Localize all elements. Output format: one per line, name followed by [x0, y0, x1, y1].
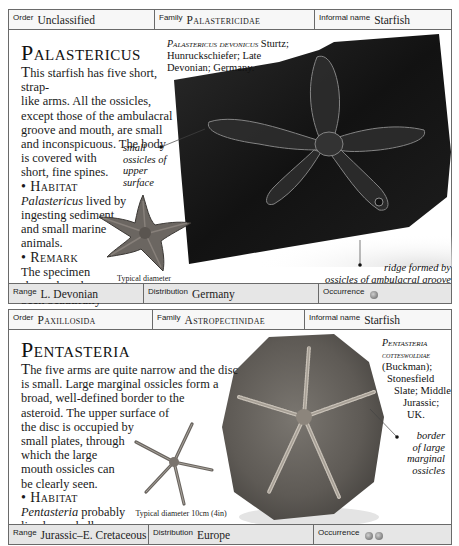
order-cell: Order Paxillosida: [9, 310, 153, 329]
occurrence-cell: Occurrence: [319, 284, 451, 303]
order-value: Unclassified: [37, 14, 94, 26]
description-line: except those of the ambulacral: [21, 109, 181, 123]
annotation-ridge: ridge formed by ossicles of ambulacral g…: [281, 262, 451, 285]
order-label: Order: [13, 313, 33, 322]
distribution-cell: Distribution Europe: [149, 525, 314, 544]
occurrence-icon: [365, 532, 373, 540]
description-line: This starfish has five short, strap-: [21, 65, 181, 94]
family-value: Astropectinidae: [185, 314, 265, 326]
family-value: Palastericidae: [187, 14, 261, 26]
distribution-value: Germany: [192, 288, 235, 300]
entry-footer: Range Jurassic–E. Cretaceous Distributio…: [9, 524, 451, 544]
palastericus-pyrite-starfish-image: [97, 193, 193, 273]
annotation-border-ossicles: border of large marginal ossicles: [393, 430, 445, 476]
range-cell: Range Jurassic–E. Cretaceous: [9, 525, 149, 544]
entry-palastericus: Order Unclassified Family Palastericidae…: [8, 9, 452, 304]
informal-name-cell: Informal name Starfish: [315, 10, 451, 29]
family-label: Family: [159, 13, 183, 22]
description-line: The five arms are quite narrow and the d…: [21, 362, 241, 377]
scientific-name: cotteswoldiae: [382, 349, 452, 361]
informal-name-label: Informal name: [319, 13, 370, 22]
description-line: is small. Large marginal ossicles form a: [21, 377, 241, 391]
informal-name-value: Starfish: [364, 314, 400, 326]
distribution-label: Distribution: [148, 287, 188, 296]
entry-header: Order Unclassified Family Palastericidae…: [9, 10, 451, 30]
entry-title: Pentasteria: [21, 337, 130, 363]
description-line: like arms. All the ossicles,: [21, 94, 181, 108]
range-value: L. Devonian: [41, 288, 98, 300]
distribution-value: Europe: [197, 529, 230, 541]
informal-name-cell: Informal name Starfish: [305, 310, 451, 329]
specimen-caption: Palastericus devonicus Sturtz; Hunrucksc…: [167, 38, 307, 74]
occurrence-label: Occurrence: [323, 287, 364, 296]
description-line: asteroid. The upper surface of: [21, 406, 241, 420]
distribution-cell: Distribution Germany: [144, 284, 319, 303]
distribution-label: Distribution: [153, 528, 193, 537]
scientific-name: Palastericus devonicus: [167, 38, 258, 49]
entry-header: Order Paxillosida Family Astropectinidae…: [9, 310, 451, 330]
entry-title: Palastericus: [21, 40, 141, 66]
order-cell: Order Unclassified: [9, 10, 155, 29]
range-label: Range: [13, 287, 37, 296]
occurrence-icon: [370, 291, 378, 299]
informal-name-label: Informal name: [309, 313, 360, 322]
order-label: Order: [13, 13, 33, 22]
range-value: Jurassic–E. Cretaceous: [41, 529, 147, 541]
typical-diameter: Typical diameter 10cm (4in): [121, 509, 241, 519]
family-label: Family: [157, 313, 181, 322]
family-cell: Family Palastericidae: [155, 10, 315, 29]
entry-footer: Range L. Devonian Distribution Germany O…: [9, 283, 451, 303]
annotation-leader-line: [149, 125, 209, 155]
description-line: broad, well-defined border to the: [21, 391, 241, 405]
family-cell: Family Astropectinidae: [153, 310, 305, 329]
informal-name-value: Starfish: [374, 14, 410, 26]
order-value: Paxillosida: [37, 314, 95, 326]
range-cell: Range L. Devonian: [9, 284, 144, 303]
entry-pentasteria: Order Paxillosida Family Astropectinidae…: [8, 309, 452, 545]
scientific-name: Pentasteria: [382, 337, 452, 349]
pentasteria-starfish-image: [134, 422, 214, 506]
occurrence-label: Occurrence: [318, 528, 359, 537]
range-label: Range: [13, 528, 37, 537]
occurrence-cell: Occurrence: [314, 525, 451, 544]
occurrence-icon: [375, 532, 383, 540]
